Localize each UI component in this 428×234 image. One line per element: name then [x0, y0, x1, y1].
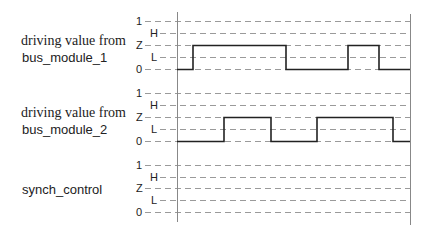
timing-diagram-canvas	[0, 0, 428, 234]
